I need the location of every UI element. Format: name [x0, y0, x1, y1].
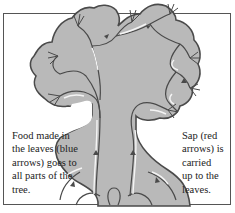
tree-diagram: Food made in the leaves (blue arrows) go… [0, 0, 235, 213]
food-flow-caption: Food made in the leaves (blue arrows) go… [12, 129, 92, 196]
sap-flow-caption: Sap (red arrows) is carried up to the le… [182, 129, 232, 196]
